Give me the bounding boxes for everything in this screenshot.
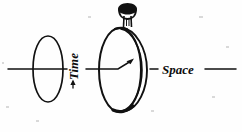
time-label: Time [66,53,81,80]
time-space-diagram: Time Space [0,0,242,132]
figure-root: Time Space [0,0,242,132]
space-label: Space [162,62,194,77]
